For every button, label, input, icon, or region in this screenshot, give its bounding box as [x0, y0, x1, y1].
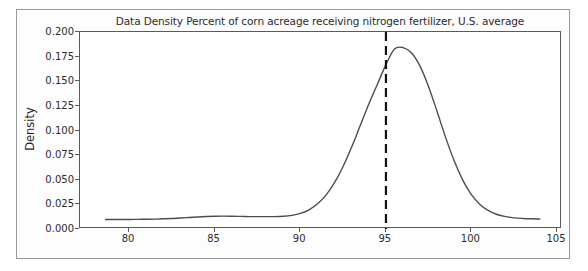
y-axis-label: Density [23, 107, 37, 151]
x-tick-label: 85 [194, 233, 234, 244]
y-tick-mark [75, 228, 79, 229]
x-tick-label: 80 [108, 233, 148, 244]
density-curve [106, 47, 540, 220]
plot-area [79, 31, 561, 228]
y-tick-label: 0.000 [26, 223, 74, 234]
density-curve-group [106, 47, 540, 220]
y-tick-label: 0.025 [26, 198, 74, 209]
y-tick-label: 0.175 [26, 50, 74, 61]
x-tick-label: 95 [365, 233, 405, 244]
figure: Data Density Percent of corn acreage rec… [0, 0, 588, 271]
x-tick-label: 105 [536, 233, 576, 244]
chart-title: Data Density Percent of corn acreage rec… [79, 12, 561, 30]
y-tick-label: 0.200 [26, 26, 74, 37]
x-tick-label: 90 [279, 233, 319, 244]
density-plot-svg [80, 32, 562, 229]
y-tick-label: 0.050 [26, 173, 74, 184]
y-tick-label: 0.150 [26, 75, 74, 86]
x-tick-label: 100 [450, 233, 490, 244]
